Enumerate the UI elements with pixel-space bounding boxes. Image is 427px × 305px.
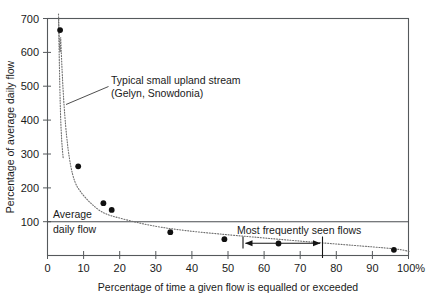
data-point [57, 27, 63, 33]
frequent-flows-label: Most frequently seen flows [237, 224, 361, 236]
y-tick-label-600: 600 [21, 46, 39, 58]
data-point [391, 247, 397, 253]
average-daily-flow-label-line1: Average [53, 208, 92, 220]
y-axis-labels: 700 600 500 400 300 200 100 [21, 13, 39, 228]
y-tick-label-700: 700 [21, 13, 39, 25]
flow-duration-chart: 700 600 500 400 300 200 100 Percentage o… [0, 0, 427, 305]
callout-leader-line [66, 87, 109, 105]
y-axis-title: Percentage of average daily flow [4, 60, 16, 213]
callout-label-line1: Typical small upland stream [111, 74, 241, 86]
plot-frame [48, 19, 409, 256]
span-arrow-head-right [313, 240, 321, 246]
data-point [167, 229, 173, 235]
y-tick-label-300: 300 [21, 148, 39, 160]
x-tick-label-50: 50 [222, 262, 234, 274]
x-tick-label-30: 30 [150, 262, 162, 274]
average-daily-flow-label-line2: daily flow [53, 223, 97, 235]
data-point [75, 163, 81, 169]
x-tick-label-80: 80 [330, 262, 342, 274]
data-point [222, 236, 228, 242]
callout-label-line2: (Gelyn, Snowdonia) [111, 87, 203, 99]
x-tick-label-60: 60 [258, 262, 270, 274]
data-points [57, 27, 397, 253]
x-tick-label-70: 70 [294, 262, 306, 274]
chart-page: 700 600 500 400 300 200 100 Percentage o… [0, 0, 427, 305]
span-arrow-head-left [245, 240, 253, 246]
flow-duration-curve [59, 14, 410, 252]
x-tick-label-10: 10 [77, 262, 89, 274]
x-tick-label-0: 0 [44, 262, 50, 274]
x-axis-labels: 0 10 20 30 40 50 60 70 80 90 100% [44, 262, 425, 274]
x-axis-title: Percentage of time a given flow is equal… [98, 281, 358, 293]
y-tick-label-400: 400 [21, 114, 39, 126]
x-tick-label-100: 100% [397, 262, 425, 274]
x-tick-label-40: 40 [186, 262, 198, 274]
x-tick-label-90: 90 [366, 262, 378, 274]
y-tick-label-500: 500 [21, 80, 39, 92]
y-tick-label-200: 200 [21, 182, 39, 194]
x-tick-label-20: 20 [114, 262, 126, 274]
data-point [101, 200, 107, 206]
y-tick-label-100: 100 [21, 216, 39, 228]
data-point [109, 207, 115, 213]
